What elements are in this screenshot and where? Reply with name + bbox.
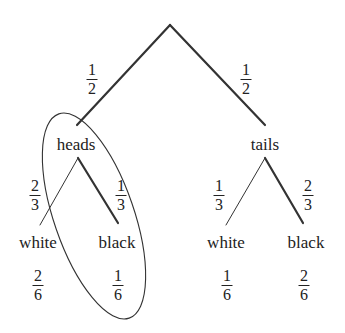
joint-tails-white: 16 (222, 268, 233, 303)
prob-tails: 12 (241, 62, 252, 97)
branch-heads-black (78, 158, 118, 223)
leaf-heads-white: white (19, 234, 57, 251)
prob-tails-black: 23 (303, 178, 314, 213)
prob-heads-white: 23 (30, 178, 41, 213)
leaf-tails-black: black (288, 234, 325, 251)
joint-heads-white: 26 (33, 268, 44, 303)
prob-heads-black: 13 (116, 178, 127, 213)
node-heads: heads (57, 136, 96, 153)
joint-tails-black: 26 (299, 268, 310, 303)
branch-tails-white (226, 158, 265, 225)
tree-lines (0, 0, 345, 333)
leaf-heads-black: black (99, 234, 136, 251)
prob-heads: 12 (87, 62, 98, 97)
leaf-tails-white: white (207, 234, 245, 251)
branch-tails-black (265, 158, 303, 223)
joint-heads-black: 16 (113, 268, 124, 303)
node-tails: tails (251, 136, 279, 153)
prob-tails-white: 13 (214, 178, 225, 213)
